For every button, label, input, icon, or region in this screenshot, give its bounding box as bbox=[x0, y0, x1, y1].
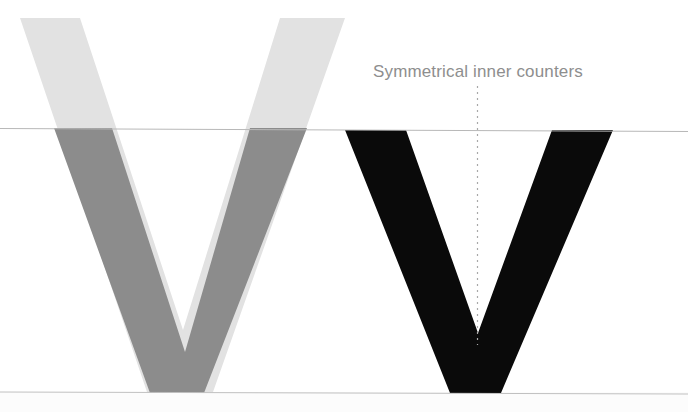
below-baseline-band bbox=[0, 392, 688, 412]
annotation-label: Symmetrical inner counters bbox=[373, 61, 583, 83]
overlay-comparison-v bbox=[54, 128, 307, 393]
glyph-vector-layer bbox=[0, 0, 688, 412]
typography-specimen-canvas: Symmetrical inner counters bbox=[0, 0, 688, 412]
glyph-artboard bbox=[0, 0, 688, 412]
ghost-outline-v bbox=[20, 18, 345, 392]
final-solid-v bbox=[345, 130, 613, 393]
